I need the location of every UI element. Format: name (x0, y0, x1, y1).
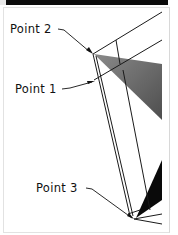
cad-drawing: Point 2 Point 1 Point 3 (0, 0, 178, 235)
arrowhead-point1 (87, 81, 95, 84)
label-point2: Point 2 (10, 22, 52, 36)
arrowhead-point2 (86, 47, 93, 54)
leader-point1 (62, 82, 92, 89)
leader-point2 (58, 29, 90, 52)
shaded-face-gray (94, 54, 162, 120)
label-point1: Point 1 (15, 82, 57, 96)
label-point3: Point 3 (36, 181, 78, 195)
shaded-face-dark (136, 160, 162, 218)
